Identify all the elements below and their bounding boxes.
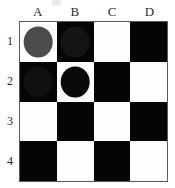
board-square-b2[interactable] <box>57 62 94 102</box>
board-square-d1[interactable] <box>130 22 167 62</box>
column-header-b: B <box>56 4 93 20</box>
board-square-c4[interactable] <box>94 141 131 181</box>
board-square-d2[interactable] <box>130 62 167 102</box>
checker-piece-b1[interactable] <box>61 26 90 57</box>
board-square-c2[interactable] <box>94 62 131 102</box>
board-square-b3[interactable] <box>57 102 94 142</box>
board-square-d4[interactable] <box>130 141 167 181</box>
board-square-a2[interactable] <box>20 62 57 102</box>
board-square-a4[interactable] <box>20 141 57 181</box>
column-header-d: D <box>131 4 168 20</box>
row-header-1: 1 <box>2 21 18 61</box>
checker-piece-a1[interactable] <box>24 26 53 57</box>
row-header-2: 2 <box>2 61 18 101</box>
column-header-row: A B C D <box>19 4 168 20</box>
board-square-c1[interactable] <box>94 22 131 62</box>
board-square-a1[interactable] <box>20 22 57 62</box>
checker-piece-a2[interactable] <box>24 66 53 97</box>
checkerboard-figure: A B C D 1 2 3 4 <box>0 0 175 188</box>
board-square-a3[interactable] <box>20 102 57 142</box>
column-header-a: A <box>19 4 56 20</box>
checkerboard-grid <box>19 21 168 182</box>
column-header-c: C <box>94 4 131 20</box>
row-header-4: 4 <box>2 142 18 182</box>
board-square-d3[interactable] <box>130 102 167 142</box>
board-square-b4[interactable] <box>57 141 94 181</box>
row-header-3: 3 <box>2 102 18 142</box>
board-square-b1[interactable] <box>57 22 94 62</box>
row-header-column: 1 2 3 4 <box>2 21 18 182</box>
checker-piece-b2[interactable] <box>61 66 90 97</box>
board-square-c3[interactable] <box>94 102 131 142</box>
